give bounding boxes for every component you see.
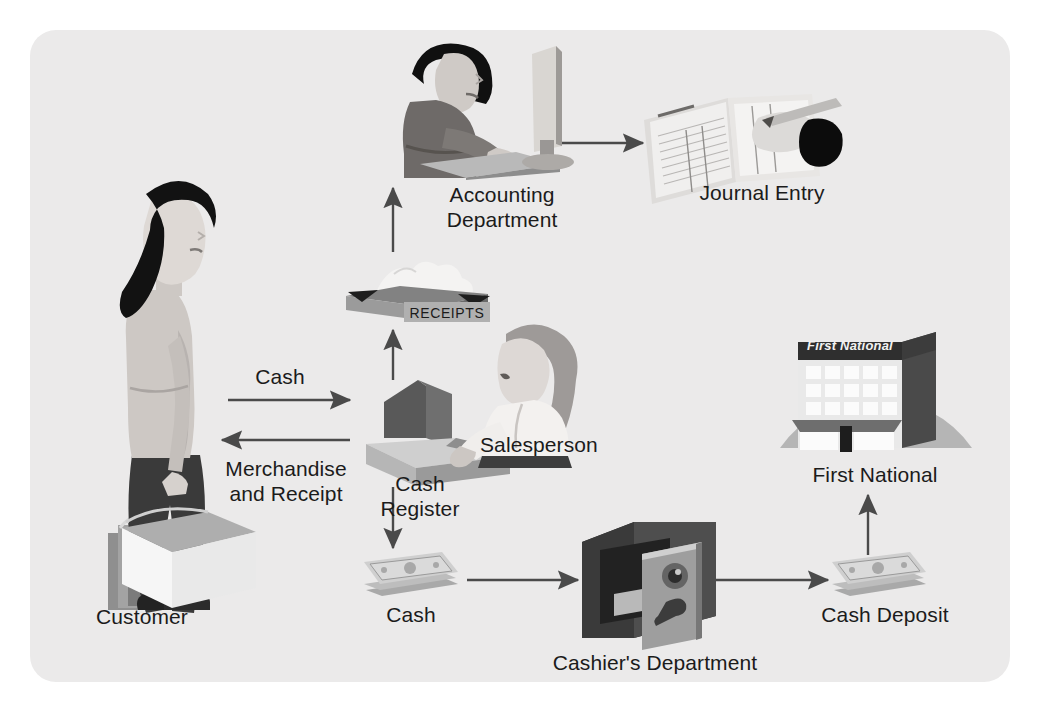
label-cash: Cash — [356, 602, 466, 627]
cash-stack-icon — [364, 552, 458, 596]
receipts-box-figure — [338, 252, 508, 336]
label-journal-entry: Journal Entry — [652, 180, 872, 205]
edge-label-merchandise-and-receipt: Merchandise and Receipt — [196, 456, 376, 506]
label-salesperson: Salesperson — [480, 432, 680, 457]
label-accounting-department: Accounting Department — [392, 182, 612, 232]
label-first-national: First National — [760, 462, 990, 487]
safe-figure — [578, 520, 723, 650]
monitor-icon — [522, 46, 574, 170]
label-cashiers-department: Cashier's Department — [510, 650, 800, 675]
cash-stack-icon — [832, 552, 926, 596]
accountant-at-computer-figure — [400, 40, 590, 180]
edge-label-cash: Cash — [200, 364, 360, 389]
bank-sign-text: First National — [798, 338, 902, 354]
label-cash-deposit: Cash Deposit — [790, 602, 980, 627]
diagram-canvas: Customer Cash Register — [0, 0, 1039, 714]
label-customer: Customer — [52, 604, 232, 629]
label-receipts-box: RECEIPTS — [404, 304, 490, 322]
